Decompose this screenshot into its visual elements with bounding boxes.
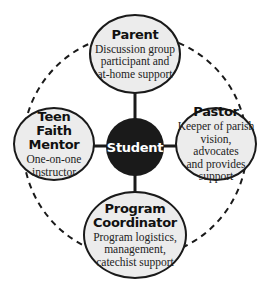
node-parent: Parent Discussion group participant and … — [89, 14, 181, 94]
node-desc: Keeper of parish vision, advocates and p… — [177, 120, 255, 183]
node-program-coordinator: Program Coordinator Program logistics, m… — [83, 191, 187, 279]
node-desc: One-on-one instructor — [27, 153, 82, 178]
node-desc: Discussion group participant and at-home… — [95, 43, 175, 81]
center-label: Student — [107, 140, 163, 155]
node-title: Program Coordinator — [93, 202, 177, 230]
node-student-center: Student — [106, 118, 164, 176]
node-title: Teen Faith Mentor — [15, 110, 93, 152]
node-title: Pastor — [193, 105, 238, 119]
node-title: Parent — [112, 28, 159, 42]
node-desc: Program logistics, management, catechist… — [93, 231, 177, 269]
node-pastor: Pastor Keeper of parish vision, advocate… — [175, 107, 257, 181]
node-teen-faith-mentor: Teen Faith Mentor One-on-one instructor — [13, 107, 95, 181]
